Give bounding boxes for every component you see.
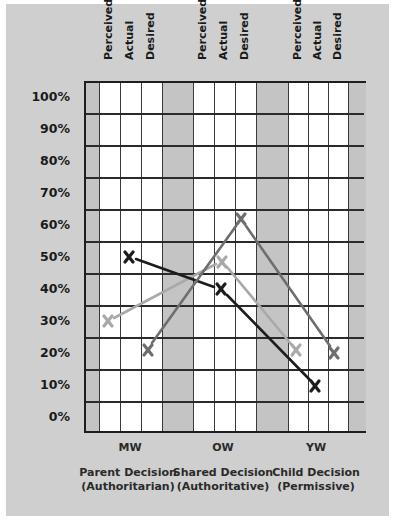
- x-marker-icon: [330, 348, 338, 358]
- series-desired: [152, 226, 330, 346]
- x-marker-icon: [125, 252, 133, 262]
- x-marker-icon: [104, 316, 112, 326]
- x-marker-icon: [311, 381, 319, 391]
- group-desc-child: Child Decision (Permissive): [256, 466, 376, 494]
- group-label-yw: YW: [261, 441, 371, 454]
- x-marker-icon: [144, 345, 152, 355]
- x-marker-icon: [237, 214, 245, 224]
- x-marker-icon: [292, 345, 300, 355]
- desc-line2: (Permissive): [256, 480, 376, 494]
- x-marker-icon: [217, 284, 225, 294]
- desc-line1: Child Decision: [256, 466, 376, 480]
- series-actual: [136, 259, 310, 380]
- x-marker-icon: [218, 257, 226, 267]
